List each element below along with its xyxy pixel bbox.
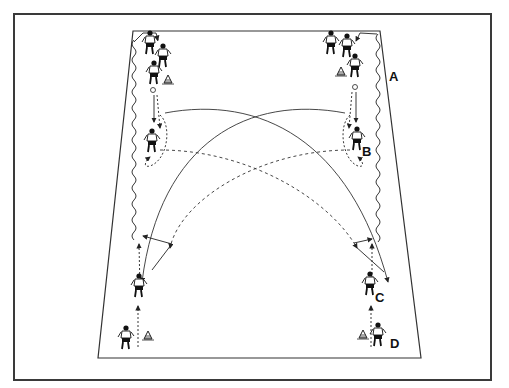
- drill-diagram: [0, 0, 509, 388]
- player-queue-left-2: [155, 43, 171, 67]
- ball-right: [353, 85, 358, 90]
- player-queue-left-1: [142, 30, 158, 54]
- label-A: A: [389, 69, 398, 84]
- run-arc-left: [160, 150, 357, 248]
- label-D: D: [390, 336, 399, 351]
- cone-bottom-left: [142, 331, 154, 340]
- label-B: B: [362, 144, 371, 159]
- cone-top-left: [162, 75, 174, 84]
- player-D-right: [370, 322, 386, 346]
- cone-top-right: [335, 67, 347, 76]
- pass-arc-right-to-left: [142, 109, 345, 282]
- dribble-line-left: [132, 40, 136, 240]
- cone-bottom-right: [357, 330, 369, 339]
- label-C: C: [375, 290, 384, 305]
- pitch-outline: [98, 31, 421, 358]
- player-C-left: [131, 273, 147, 297]
- run-arc-right: [170, 150, 350, 248]
- player-B-left: [144, 128, 160, 152]
- diagram-canvas: A B C D: [0, 0, 509, 388]
- ball-left: [151, 88, 156, 93]
- player-D-left: [118, 325, 134, 349]
- player-queue-right-2: [339, 33, 355, 57]
- dribble-line-right: [376, 34, 380, 242]
- player-queue-right-1: [323, 30, 339, 54]
